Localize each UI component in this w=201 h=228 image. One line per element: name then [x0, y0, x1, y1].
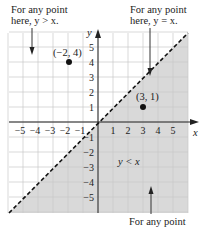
- region-label: y < x: [118, 156, 140, 167]
- y-tick-label: 4: [89, 57, 94, 68]
- x-tick-label: 5: [171, 125, 176, 136]
- coordinate-plane: −5−4−3−2−11234554321−1−2−3−4−5: [0, 0, 201, 228]
- point-3-1: [140, 104, 146, 110]
- y-tick-label: −4: [83, 177, 94, 188]
- annotation-top-left-line2: here, y > x.: [11, 15, 68, 26]
- x-tick-label: 1: [111, 125, 116, 136]
- y-tick-label: −1: [83, 132, 94, 143]
- y-tick-label: −2: [83, 147, 94, 158]
- annotation-top-left-line1: For any point: [11, 4, 68, 15]
- annotation-top-left: For any point here, y > x.: [11, 4, 68, 26]
- y-tick-label: −3: [83, 162, 94, 173]
- x-axis-arrow-icon: [190, 119, 199, 125]
- x-tick-label: −4: [30, 125, 41, 136]
- point-label-neg2-4: (−2, 4): [53, 47, 82, 58]
- point-neg2-4: [66, 59, 72, 65]
- y-tick-label: −5: [83, 192, 94, 203]
- x-tick-label: −2: [60, 125, 71, 136]
- y-tick-label: 3: [89, 72, 94, 83]
- annotation-top-right-line2: here, y = x.: [130, 15, 187, 26]
- y-tick-label: 5: [89, 42, 94, 53]
- y-tick-label: 1: [89, 102, 94, 113]
- y-axis-arrow-icon: [95, 29, 101, 38]
- annotation-bottom: For any point: [129, 216, 186, 227]
- x-tick-label: −3: [45, 125, 56, 136]
- x-tick-label: −5: [15, 125, 26, 136]
- x-tick-label: 3: [141, 125, 146, 136]
- annotation-top-right-line1: For any point: [130, 4, 187, 15]
- y-tick-label: 2: [89, 87, 94, 98]
- x-axis-label: x: [193, 127, 198, 138]
- x-tick-label: 2: [126, 125, 131, 136]
- point-label-3-1: (3, 1): [136, 91, 159, 102]
- inequality-graph: −5−4−3−2−11234554321−1−2−3−4−5 For any p…: [0, 0, 201, 228]
- y-axis-label: y: [87, 27, 92, 38]
- annotation-top-right: For any point here, y = x.: [130, 4, 187, 26]
- arrow-down-icon: [30, 47, 35, 55]
- annotation-bottom-line1: For any point: [129, 216, 186, 227]
- x-tick-label: 4: [156, 125, 161, 136]
